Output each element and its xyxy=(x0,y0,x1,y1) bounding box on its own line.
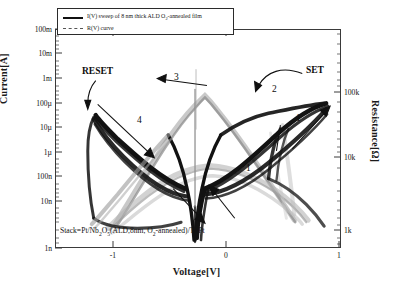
annotation-step-3: 3 xyxy=(174,72,179,82)
chart-legend: I(V) sweep of 8 nm thick ALD O2-annealed… xyxy=(57,8,234,35)
xtick-1: 0 xyxy=(211,251,241,260)
legend-label-iv: I(V) sweep of 8 nm thick ALD O2-annealed… xyxy=(87,12,202,23)
ytick-right-2: 1k xyxy=(344,226,378,235)
ytick-left-4: 10µ xyxy=(18,123,52,132)
plot-area xyxy=(55,29,341,248)
xtick-2: 1 xyxy=(324,251,354,260)
annotation-reset: RESET xyxy=(82,66,113,76)
annotation-set: SET xyxy=(306,65,324,75)
ytick-left-7: 10n xyxy=(18,197,52,206)
dashed-line-key xyxy=(62,24,84,33)
ytick-right-0: 100k xyxy=(344,88,378,97)
ytick-left-6: 100n xyxy=(18,172,52,181)
annotation-step-1b: 1 xyxy=(246,163,251,173)
x-axis-title: Voltage[V] xyxy=(0,266,393,277)
legend-item-iv: I(V) sweep of 8 nm thick ALD O2-annealed… xyxy=(62,12,229,23)
solid-line-key xyxy=(62,13,84,22)
ytick-left-0: 100m xyxy=(18,25,52,34)
annotation-step-2: 2 xyxy=(272,84,277,94)
annotation-step-4: 4 xyxy=(137,115,142,125)
ytick-left-8: 1n xyxy=(18,244,52,253)
annotation-step-1: 1 xyxy=(296,113,301,123)
y-axis-right-title: Resistance[Ω] xyxy=(370,100,381,162)
legend-label-rv: R(V) curve xyxy=(87,24,114,33)
legend-item-rv: R(V) curve xyxy=(62,23,229,34)
stack-annotation: Stack=Pt/Nb2O5(ALD,8nm, O2-annealed)/Ti/… xyxy=(60,226,205,237)
figure-root: 100m 10m 1m 100µ 10µ 1µ 100n 10n 1n 100k… xyxy=(0,0,393,287)
ytick-left-2: 1m xyxy=(18,74,52,83)
chart-curves xyxy=(56,30,340,247)
ytick-left-5: 1µ xyxy=(18,148,52,157)
ytick-left-3: 100µ xyxy=(18,99,52,108)
xtick-0: -1 xyxy=(98,251,128,260)
y-axis-left-title: Current[A] xyxy=(0,53,9,104)
ytick-left-1: 10m xyxy=(18,49,52,58)
